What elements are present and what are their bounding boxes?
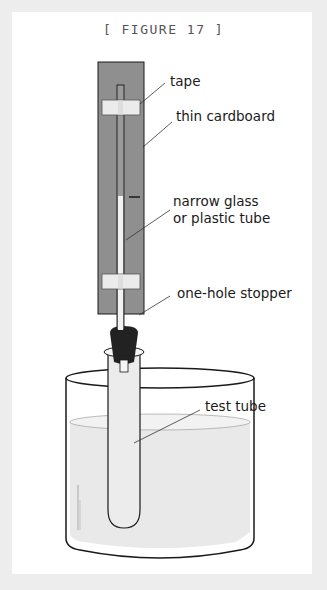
test-tube xyxy=(104,347,144,528)
label-test-tube: test tube xyxy=(205,398,266,415)
beaker xyxy=(66,368,254,558)
label-narrow-tube-1: narrow glass xyxy=(173,193,259,210)
label-tape: tape xyxy=(170,73,200,90)
label-narrow-tube-2: or plastic tube xyxy=(173,210,270,227)
label-stopper: one-hole stopper xyxy=(177,285,292,302)
label-thin-cardboard: thin cardboard xyxy=(176,108,275,125)
